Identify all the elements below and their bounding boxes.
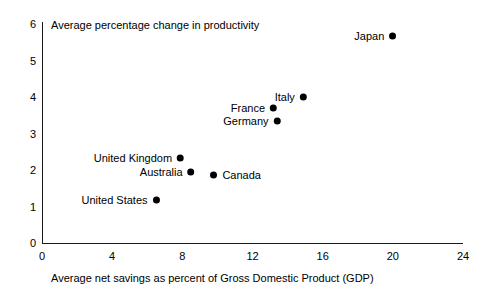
scatter-chart: 0123456 Average percentage change in pro… — [0, 0, 481, 300]
plot-area: JapanItalyFranceGermanyUnited KingdomAus… — [42, 24, 463, 243]
data-point-label: Italy — [275, 92, 295, 103]
x-axis-tick-label: 24 — [457, 251, 469, 262]
y-axis-tick-label: 5 — [10, 55, 36, 66]
y-axis-tick-label: 4 — [10, 92, 36, 103]
x-axis-line — [42, 243, 463, 244]
x-axis-tick-label: 0 — [39, 251, 45, 262]
data-point: Australia — [140, 166, 195, 177]
data-point-marker — [153, 196, 160, 203]
data-point-label: Japan — [354, 31, 384, 42]
data-point-marker — [270, 104, 277, 111]
y-axis-tick-label: 0 — [10, 238, 36, 249]
data-point-marker — [300, 94, 307, 101]
data-point-label: United Kingdom — [94, 152, 172, 163]
data-point: France — [231, 102, 277, 113]
data-point-label: Germany — [223, 115, 268, 126]
data-point-label: United States — [81, 194, 147, 205]
data-point: Germany — [223, 115, 280, 126]
y-axis-tick-label: 1 — [10, 201, 36, 212]
data-point-label: Canada — [222, 170, 261, 181]
data-point: United States — [81, 194, 159, 205]
x-axis-tick-label: 8 — [179, 251, 185, 262]
x-axis-tick-label: 16 — [317, 251, 329, 262]
y-axis-tick-label: 6 — [10, 19, 36, 30]
data-point: Italy — [275, 92, 307, 103]
data-point-label: Australia — [140, 166, 183, 177]
y-axis-tick-label: 2 — [10, 165, 36, 176]
data-point: United Kingdom — [94, 152, 184, 163]
data-point-marker — [274, 117, 281, 124]
data-point-marker — [177, 154, 184, 161]
y-axis-tick-label: 3 — [10, 128, 36, 139]
x-axis-title: Average net savings as percent of Gross … — [51, 272, 374, 285]
x-axis-tick-label: 20 — [387, 251, 399, 262]
data-point-marker — [389, 33, 396, 40]
data-point: Canada — [210, 170, 261, 181]
data-point-marker — [188, 168, 195, 175]
y-axis-tick-labels: 0123456 — [0, 0, 36, 300]
x-axis-tick-label: 4 — [109, 251, 115, 262]
data-point: Japan — [354, 31, 396, 42]
x-axis-tick-label: 12 — [246, 251, 258, 262]
data-point-marker — [210, 172, 217, 179]
data-point-label: France — [231, 102, 265, 113]
